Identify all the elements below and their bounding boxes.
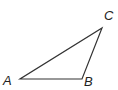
vertex-label-a: A	[2, 73, 12, 88]
triangle-abc	[20, 28, 102, 79]
triangle-diagram: A B C	[0, 0, 118, 90]
vertex-label-b: B	[84, 74, 93, 89]
vertex-label-c: C	[104, 8, 114, 23]
